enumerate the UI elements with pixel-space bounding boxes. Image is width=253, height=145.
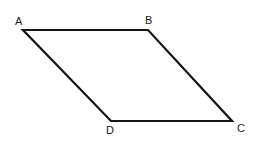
- vertex-label-d: D: [106, 125, 114, 136]
- vertex-label-c: C: [237, 123, 245, 134]
- parallelogram-diagram: [0, 0, 253, 145]
- vertex-label-a: A: [15, 16, 22, 27]
- vertex-label-b: B: [145, 15, 152, 26]
- parallelogram-shape: [23, 30, 232, 121]
- geometry-figure-canvas: A B C D: [0, 0, 253, 145]
